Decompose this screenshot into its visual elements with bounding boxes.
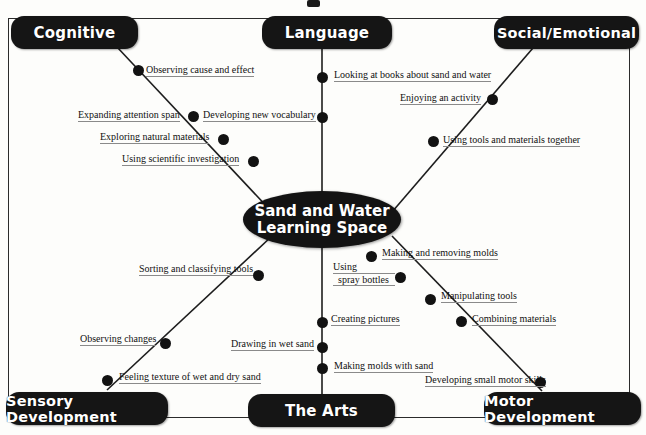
branch-label-motor-development-text: Motor Development [484, 393, 641, 425]
leaf-drawing-in-wet-sand[interactable]: Drawing in wet sand [231, 338, 314, 351]
branch-label-cognitive-text: Cognitive [34, 24, 116, 42]
leaf-developing-new-vocabulary[interactable]: Developing new vocabulary [203, 109, 316, 122]
center-node[interactable]: Sand and Water Learning Space [243, 191, 401, 248]
leaf-exploring-natural-materials[interactable]: Exploring natural materials [100, 131, 209, 144]
node-dot-exploring-natural-materials[interactable] [218, 134, 229, 145]
leaf-combining-materials[interactable]: Combining materials [472, 313, 556, 326]
leaf-using-spray-bottles[interactable]: Using spray bottles [333, 261, 395, 286]
branch-label-the-arts-text: The Arts [285, 402, 358, 420]
leaf-using-scientific-investigation[interactable]: Using scientific investigation [122, 153, 239, 166]
branch-label-the-arts[interactable]: The Arts [248, 394, 395, 427]
node-dot-observing-changes[interactable] [160, 338, 171, 349]
node-dot-creating-pictures[interactable] [317, 317, 328, 328]
leaf-feeling-texture[interactable]: Feeling texture of wet and dry sand [119, 371, 261, 384]
branch-label-language-text: Language [285, 24, 369, 42]
leaf-using-spray-bottles-line-2: spray bottles [333, 274, 395, 287]
leaf-making-removing-molds[interactable]: Making and removing molds [382, 247, 498, 260]
leaf-making-molds-with-sand[interactable]: Making molds with sand [334, 360, 433, 373]
node-dot-enjoying-an-activity[interactable] [487, 94, 498, 105]
node-dot-drawing-in-wet-sand[interactable] [317, 342, 328, 353]
leaf-observing-cause-effect[interactable]: Observing cause and effect [146, 64, 254, 77]
diagram-canvas: Cognitive Language Social/Emotional Sens… [0, 0, 646, 435]
leaf-using-spray-bottles-line-1: Using [333, 261, 395, 274]
node-dot-manipulating-tools[interactable] [425, 294, 436, 305]
node-dot-feeling-texture[interactable] [102, 375, 113, 386]
center-node-text-block: Sand and Water Learning Space [254, 203, 389, 235]
edge-sensory-development [107, 236, 272, 390]
leaf-observing-changes[interactable]: Observing changes [80, 333, 156, 346]
branch-label-motor-development[interactable]: Motor Development [484, 392, 641, 425]
center-node-line-2: Learning Space [254, 220, 389, 236]
leaf-manipulating-tools[interactable]: Manipulating tools [441, 290, 517, 303]
node-dot-looking-at-books[interactable] [317, 72, 328, 83]
branch-label-social-emotional[interactable]: Social/Emotional [494, 16, 639, 49]
leaf-developing-small-motor-skills[interactable]: Developing small motor skills [425, 374, 546, 387]
leaf-enjoying-an-activity[interactable]: Enjoying an activity [400, 92, 481, 105]
node-dot-developing-vocabulary-language[interactable] [317, 112, 328, 123]
leaf-creating-pictures[interactable]: Creating pictures [331, 313, 400, 326]
branch-label-language[interactable]: Language [262, 16, 392, 49]
node-dot-making-molds-with-sand[interactable] [317, 363, 328, 374]
branch-label-cognitive[interactable]: Cognitive [11, 16, 138, 49]
branch-label-sensory-development-text: Sensory Development [6, 393, 168, 425]
leaf-using-tools-together[interactable]: Using tools and materials together [443, 134, 580, 147]
center-node-line-1: Sand and Water [254, 203, 389, 219]
node-dot-observing-cause-effect[interactable] [133, 65, 144, 76]
node-dot-using-spray-bottles[interactable] [395, 272, 406, 283]
branch-label-social-emotional-text: Social/Emotional [497, 25, 636, 41]
node-dot-using-scientific-investigation[interactable] [248, 156, 259, 167]
node-dot-attention-vocabulary[interactable] [188, 111, 199, 122]
node-dot-using-tools-together[interactable] [428, 136, 439, 147]
node-dot-sorting-classifying-tools[interactable] [253, 270, 264, 281]
leaf-looking-at-books[interactable]: Looking at books about sand and water [334, 69, 491, 82]
branch-label-sensory-development[interactable]: Sensory Development [6, 392, 168, 425]
node-dot-combining-materials[interactable] [456, 316, 467, 327]
leaf-expanding-attention-span[interactable]: Expanding attention span [78, 109, 180, 122]
leaf-sorting-classifying-tools[interactable]: Sorting and classifying tools [139, 263, 253, 276]
